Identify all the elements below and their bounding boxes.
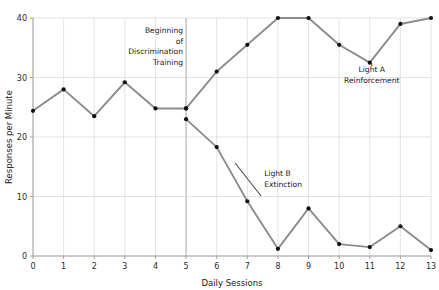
data-point bbox=[368, 245, 372, 249]
data-point bbox=[153, 106, 157, 110]
x-tick-label: 0 bbox=[30, 262, 35, 271]
data-point bbox=[184, 117, 188, 121]
data-point bbox=[184, 106, 188, 110]
data-point bbox=[306, 16, 310, 20]
data-point bbox=[215, 69, 219, 73]
x-axis-title: Daily Sessions bbox=[201, 278, 263, 288]
x-tick-label: 4 bbox=[153, 262, 158, 271]
x-tick-label: 10 bbox=[334, 262, 344, 271]
annotation-line: Light B bbox=[264, 169, 291, 178]
data-point bbox=[92, 114, 96, 118]
data-point bbox=[123, 80, 127, 84]
annotation-line: Discrimination bbox=[128, 47, 183, 56]
data-point bbox=[337, 242, 341, 246]
y-tick-label: 30 bbox=[17, 74, 27, 83]
data-point bbox=[215, 145, 219, 149]
x-tick-label: 9 bbox=[306, 262, 311, 271]
x-tick-label: 12 bbox=[395, 262, 405, 271]
annotation-line: Extinction bbox=[264, 180, 302, 189]
x-tick-label: 7 bbox=[245, 262, 250, 271]
data-point bbox=[276, 247, 280, 251]
data-point bbox=[31, 109, 35, 113]
annotation-line: Beginning bbox=[145, 26, 183, 35]
x-tick-label: 6 bbox=[214, 262, 219, 271]
data-point bbox=[276, 16, 280, 20]
x-tick-label: 3 bbox=[122, 262, 127, 271]
line-chart: 010203040012345678910111213Daily Session… bbox=[0, 0, 439, 290]
x-tick-label: 8 bbox=[275, 262, 280, 271]
y-tick-label: 10 bbox=[17, 193, 27, 202]
annotation-line: Training bbox=[152, 58, 183, 67]
x-tick-label: 11 bbox=[365, 262, 375, 271]
annotation-line: of bbox=[176, 37, 184, 46]
data-point bbox=[62, 87, 66, 91]
data-point bbox=[398, 224, 402, 228]
y-tick-label: 0 bbox=[22, 252, 27, 261]
x-tick-label: 5 bbox=[184, 262, 189, 271]
data-point bbox=[337, 43, 341, 47]
data-point bbox=[429, 16, 433, 20]
x-tick-label: 1 bbox=[61, 262, 66, 271]
annotation-line: Reinforcement bbox=[344, 76, 400, 85]
y-axis-title: Responses per Minute bbox=[4, 90, 14, 184]
data-point bbox=[306, 206, 310, 210]
y-tick-label: 40 bbox=[17, 14, 27, 23]
annotation-line: Light A bbox=[358, 65, 385, 74]
data-point bbox=[245, 43, 249, 47]
data-point bbox=[398, 22, 402, 26]
x-tick-label: 13 bbox=[426, 262, 436, 271]
y-tick-label: 20 bbox=[17, 133, 27, 142]
chart-container: 010203040012345678910111213Daily Session… bbox=[0, 0, 439, 290]
data-point bbox=[429, 248, 433, 252]
x-tick-label: 2 bbox=[92, 262, 97, 271]
data-point bbox=[245, 199, 249, 203]
